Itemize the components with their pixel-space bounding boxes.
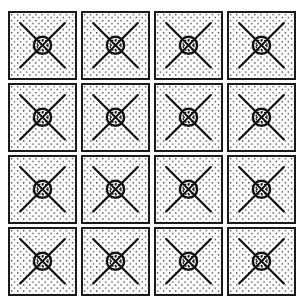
tile-motif-icon bbox=[229, 229, 294, 294]
tile-motif-icon bbox=[83, 229, 148, 294]
pattern-tile-r3-c1 bbox=[8, 155, 77, 224]
center-circle-icon bbox=[180, 253, 197, 270]
pattern-tile-r4-c4 bbox=[227, 227, 296, 296]
tile-motif-icon bbox=[10, 85, 75, 150]
tile-motif-icon bbox=[10, 157, 75, 222]
tile-motif-icon bbox=[156, 157, 221, 222]
center-circle-icon bbox=[180, 37, 197, 54]
tile-motif-icon bbox=[229, 85, 294, 150]
center-circle-icon bbox=[253, 37, 270, 54]
tile-motif-icon bbox=[10, 229, 75, 294]
tile-motif-icon bbox=[83, 13, 148, 78]
center-circle-icon bbox=[107, 253, 124, 270]
center-circle-icon bbox=[34, 253, 51, 270]
center-circle-icon bbox=[253, 253, 270, 270]
center-circle-icon bbox=[34, 181, 51, 198]
pattern-tile-r4-c3 bbox=[154, 227, 223, 296]
center-circle-icon bbox=[253, 181, 270, 198]
tile-motif-icon bbox=[83, 157, 148, 222]
pattern-tile-r2-c4 bbox=[227, 83, 296, 152]
pattern-tile-r4-c1 bbox=[8, 227, 77, 296]
pattern-tile-r1-c3 bbox=[154, 11, 223, 80]
tile-motif-icon bbox=[229, 13, 294, 78]
tile-motif-icon bbox=[10, 13, 75, 78]
center-circle-icon bbox=[180, 181, 197, 198]
center-circle-icon bbox=[180, 109, 197, 126]
center-circle-icon bbox=[34, 37, 51, 54]
center-circle-icon bbox=[107, 109, 124, 126]
tile-motif-icon bbox=[83, 85, 148, 150]
center-circle-icon bbox=[107, 37, 124, 54]
pattern-tile-r1-c1 bbox=[8, 11, 77, 80]
pattern-tile-r3-c2 bbox=[81, 155, 150, 224]
tile-motif-icon bbox=[229, 157, 294, 222]
tile-motif-icon bbox=[156, 85, 221, 150]
pattern-tile-r1-c2 bbox=[81, 11, 150, 80]
pattern-tile-r3-c3 bbox=[154, 155, 223, 224]
center-circle-icon bbox=[107, 181, 124, 198]
pattern-tile-r4-c2 bbox=[81, 227, 150, 296]
center-circle-icon bbox=[253, 109, 270, 126]
pattern-tile-r3-c4 bbox=[227, 155, 296, 224]
pattern-tile-r2-c2 bbox=[81, 83, 150, 152]
pattern-tile-r2-c1 bbox=[8, 83, 77, 152]
tile-motif-icon bbox=[156, 13, 221, 78]
tile-motif-icon bbox=[156, 229, 221, 294]
center-circle-icon bbox=[34, 109, 51, 126]
tile-grid bbox=[8, 11, 296, 297]
pattern-tile-r2-c3 bbox=[154, 83, 223, 152]
pattern-tile-r1-c4 bbox=[227, 11, 296, 80]
